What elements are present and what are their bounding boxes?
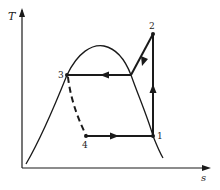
y-axis-label: T <box>8 10 17 23</box>
process-1-2 <box>150 34 157 136</box>
point-4 <box>84 134 88 138</box>
point-3 <box>65 73 69 77</box>
arrow-right-icon <box>110 133 119 140</box>
process-4-1 <box>86 133 153 140</box>
x-axis-arrow-icon <box>202 165 211 171</box>
x-axis-label: s <box>201 172 206 183</box>
axes: T s <box>8 8 211 183</box>
process-3-4 <box>68 77 86 135</box>
point-label-3: 3 <box>58 70 64 80</box>
point-label-1: 1 <box>157 131 163 141</box>
ts-diagram: T s 1 2 3 4 <box>0 0 220 190</box>
arrow-left-icon <box>100 72 109 79</box>
y-axis-arrow-icon <box>19 8 25 17</box>
point-label-4: 4 <box>82 140 88 150</box>
point-1 <box>151 134 155 138</box>
arrow-diagonal-icon <box>141 56 148 66</box>
arrow-up-icon <box>150 84 157 93</box>
point-label-2: 2 <box>149 21 155 31</box>
point-2 <box>151 32 155 36</box>
